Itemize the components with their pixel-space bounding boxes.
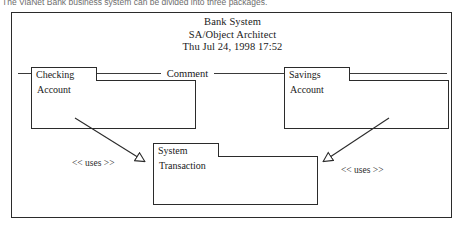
diagram-title: Bank System xyxy=(12,16,453,29)
uses-label-savings: << uses >> xyxy=(341,165,384,176)
package-tab-label-savings: Savings xyxy=(289,69,321,80)
uses-label-checking: << uses >> xyxy=(72,158,115,169)
figure-caption: The ViaNet Bank business system can be d… xyxy=(2,0,462,8)
figure-caption-text: The ViaNet Bank business system can be d… xyxy=(2,0,462,8)
package-body-label-checking: Account xyxy=(37,84,71,95)
package-savings[interactable]: Savings Account xyxy=(284,67,449,129)
package-body-label-savings: Account xyxy=(290,84,324,95)
package-tab-label-checking: Checking xyxy=(36,69,74,80)
package-body-checking: Account xyxy=(31,80,196,129)
diagram-frame: Bank System SA/Object Architect Thu Jul … xyxy=(11,12,452,218)
package-tab-savings: Savings xyxy=(284,67,350,81)
package-body-savings: Account xyxy=(284,80,449,129)
package-tab-checking: Checking xyxy=(31,67,97,81)
diagram-timestamp: Thu Jul 24, 1998 17:52 xyxy=(12,41,453,54)
title-block: Bank System SA/Object Architect Thu Jul … xyxy=(12,16,453,54)
package-tab-label-system: System xyxy=(158,145,187,156)
package-body-system: Transaction xyxy=(153,156,318,205)
package-body-label-system: Transaction xyxy=(159,160,206,171)
package-tab-system: System xyxy=(153,143,219,157)
package-system[interactable]: System Transaction xyxy=(153,143,318,205)
package-checking[interactable]: Checking Account xyxy=(31,67,196,129)
diagram-tool-name: SA/Object Architect xyxy=(12,29,453,42)
